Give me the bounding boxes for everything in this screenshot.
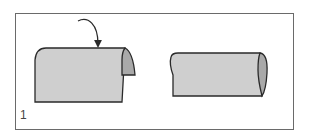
step-number: 1 bbox=[20, 108, 27, 122]
fold-illustration bbox=[0, 0, 309, 138]
before-fold-shape bbox=[35, 48, 135, 102]
fold-arrow-icon bbox=[78, 20, 98, 44]
after-fold-shape bbox=[170, 53, 267, 96]
